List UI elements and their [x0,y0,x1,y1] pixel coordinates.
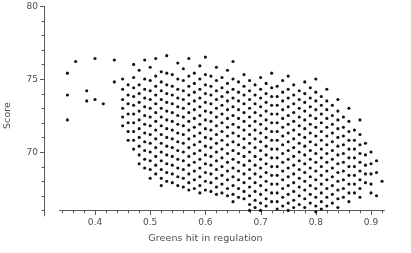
y-tick-label: 80 [20,1,38,11]
y-tick-label: 75 [20,74,38,84]
x-axis-title: Greens hit in regulation [0,232,411,243]
x-tick-label: 0.4 [88,217,102,227]
x-tick-label: 0.5 [143,217,157,227]
plot-area [0,0,411,253]
x-tick-label: 0.9 [364,217,378,227]
x-tick-label: 0.6 [198,217,212,227]
y-tick-label: 70 [20,147,38,157]
x-tick-label: 0.7 [253,217,267,227]
y-axis-title: Score [1,86,12,146]
x-tick-label: 0.8 [309,217,323,227]
scatter-chart-figure: Score Greens hit in regulation 0.40.50.6… [0,0,411,253]
